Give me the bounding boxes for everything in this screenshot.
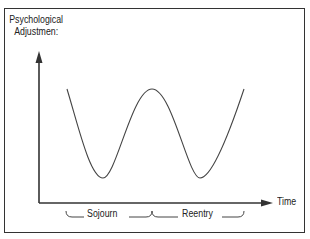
phase-label-sojourn: Sojourn <box>85 208 119 219</box>
phase-label-reentry: Reentry <box>180 208 214 219</box>
y-axis-label-line1: Psychological <box>8 14 64 26</box>
y-axis-arrow-icon <box>36 51 43 63</box>
x-axis-label: Time <box>277 196 296 207</box>
y-axis-label-line2: Adjustmen: <box>8 26 64 38</box>
x-axis-arrow-icon <box>261 200 273 207</box>
y-axis-label: Psychological Adjustmen: <box>8 14 64 38</box>
adjustment-w-curve <box>67 89 244 178</box>
